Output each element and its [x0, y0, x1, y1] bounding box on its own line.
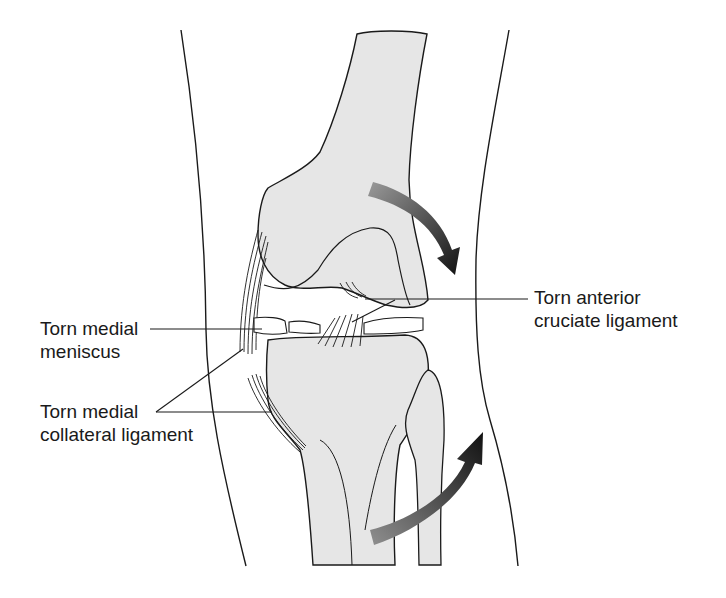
knee-injury-diagram: Torn medial meniscus Torn medial collate…: [0, 0, 726, 598]
leg-outline-lateral: [476, 30, 518, 566]
lateral-meniscus: [364, 318, 423, 334]
label-line-1: Torn medial: [40, 317, 138, 340]
femur: [258, 31, 428, 307]
medial-meniscus: [254, 317, 287, 334]
label-line-2: meniscus: [40, 340, 138, 363]
label-line-1: Torn medial: [40, 400, 193, 423]
label-torn-medial-collateral-ligament: Torn medial collateral ligament: [40, 400, 193, 446]
label-line-2: cruciate ligament: [534, 309, 678, 332]
label-line-1: Torn anterior: [534, 286, 678, 309]
label-torn-medial-meniscus: Torn medial meniscus: [40, 317, 138, 363]
medial-meniscus-torn-fragment: [289, 321, 320, 333]
label-line-2: collateral ligament: [40, 423, 193, 446]
label-torn-anterior-cruciate-ligament: Torn anterior cruciate ligament: [534, 286, 678, 332]
leg-outline-medial: [181, 30, 246, 566]
